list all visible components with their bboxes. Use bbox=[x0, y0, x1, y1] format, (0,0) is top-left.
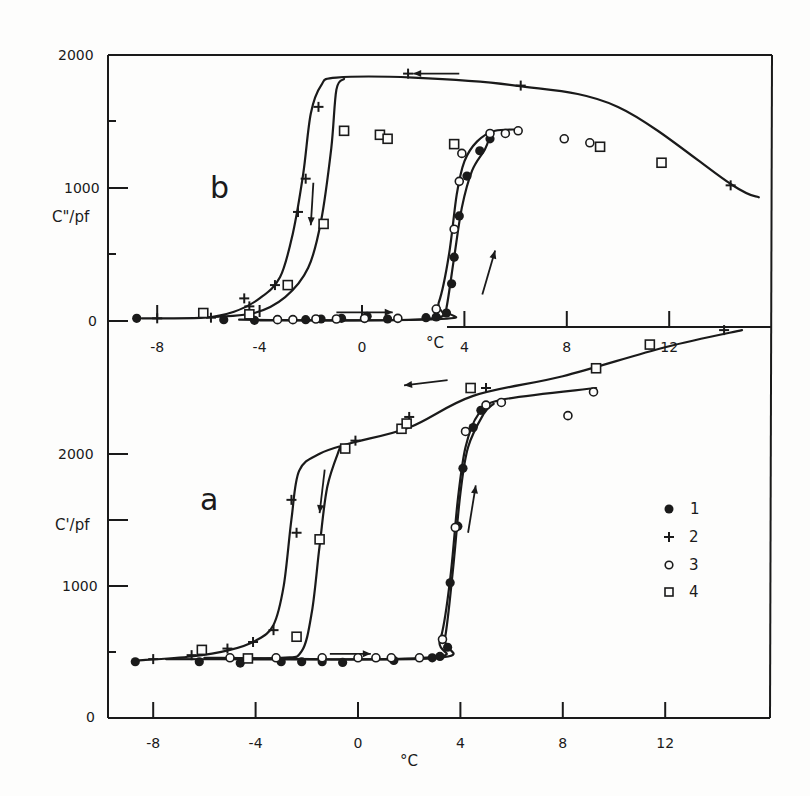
x-tick-label: -4 bbox=[253, 339, 267, 355]
open-circle-marker bbox=[501, 129, 509, 137]
x-tick-label: 4 bbox=[460, 339, 469, 355]
filled-circle-marker bbox=[442, 308, 451, 317]
plus-marker bbox=[248, 637, 258, 647]
open-circle-icon bbox=[665, 561, 673, 569]
x-tick-label: 0 bbox=[358, 339, 367, 355]
filled-circle-marker bbox=[383, 314, 392, 323]
ytick-a-1000: 1000 bbox=[62, 578, 98, 594]
curve-cooling-plus bbox=[138, 330, 742, 660]
plus-marker bbox=[516, 81, 526, 91]
filled-circle-marker bbox=[462, 171, 471, 180]
x-tick-label: 4 bbox=[456, 735, 465, 751]
filled-circle-marker bbox=[131, 657, 140, 666]
open-circle-marker bbox=[455, 177, 463, 185]
ytick-b-1000: 1000 bbox=[64, 180, 100, 196]
open-square-marker bbox=[243, 654, 252, 663]
open-circle-marker bbox=[387, 654, 395, 662]
ytick-a-2000: 2000 bbox=[58, 446, 94, 462]
filled-circle-marker bbox=[132, 314, 141, 323]
y-ticks-a bbox=[108, 454, 128, 652]
open-circle-marker bbox=[361, 314, 369, 322]
svg-text:1: 1 bbox=[690, 500, 700, 518]
open-square-marker bbox=[245, 310, 254, 319]
plus-marker bbox=[152, 313, 162, 323]
open-square-marker bbox=[197, 645, 206, 654]
plus-icon bbox=[664, 532, 674, 542]
panel-label-a: a bbox=[200, 482, 218, 517]
plus-marker bbox=[293, 207, 303, 217]
filled-circle-marker bbox=[443, 643, 452, 652]
x-ticks-a: -8-404812 bbox=[146, 702, 674, 751]
open-square-marker bbox=[596, 142, 605, 151]
xlabel-a: °C bbox=[400, 752, 418, 770]
filled-circle-marker bbox=[297, 657, 306, 666]
open-circle-marker bbox=[394, 314, 402, 322]
open-circle-marker bbox=[354, 654, 362, 662]
arrowhead-icon bbox=[308, 217, 315, 225]
open-circle-marker bbox=[438, 635, 446, 643]
open-circle-marker bbox=[590, 388, 598, 396]
open-square-marker bbox=[592, 364, 601, 373]
open-circle-marker bbox=[274, 316, 282, 324]
ytick-a-0: 0 bbox=[86, 709, 95, 725]
filled-circle-marker bbox=[338, 658, 347, 667]
open-square-marker bbox=[645, 340, 654, 349]
filled-circle-marker bbox=[447, 279, 456, 288]
x-tick-label: -8 bbox=[146, 735, 160, 751]
open-circle-marker bbox=[226, 654, 234, 662]
filled-circle-marker bbox=[458, 464, 467, 473]
filled-circle-marker bbox=[421, 313, 430, 322]
plus-marker bbox=[313, 102, 323, 112]
filled-circle-marker bbox=[475, 146, 484, 155]
open-circle-marker bbox=[432, 305, 440, 313]
legend: 1 2 3 4 bbox=[664, 500, 700, 601]
xlabel-b: °C bbox=[426, 334, 444, 352]
svg-text:3: 3 bbox=[689, 556, 699, 574]
open-square-marker bbox=[341, 444, 350, 453]
panel-label-b: b bbox=[210, 170, 229, 205]
plus-marker bbox=[148, 654, 158, 664]
plus-marker bbox=[239, 293, 249, 303]
legend-entry-3: 3 bbox=[665, 556, 698, 574]
open-circle-marker bbox=[586, 139, 594, 147]
ylabel-b: C"/pf bbox=[52, 208, 90, 226]
open-circle-marker bbox=[289, 316, 297, 324]
open-square-marker bbox=[402, 419, 411, 428]
frame-right bbox=[770, 55, 772, 718]
open-circle-marker bbox=[564, 412, 572, 420]
plus-marker bbox=[269, 625, 279, 635]
filled-circle-marker bbox=[301, 315, 310, 324]
arrowhead-icon bbox=[413, 70, 421, 77]
plot-area-a bbox=[131, 325, 742, 668]
filled-circle-marker bbox=[195, 657, 204, 666]
curve-warming-circle bbox=[166, 388, 596, 660]
legend-entry-4: 4 bbox=[665, 583, 699, 601]
filled-circle-icon bbox=[665, 505, 674, 514]
arrowhead-icon bbox=[471, 485, 478, 493]
hysteresis-figure: 2000 1000 0 2000 1000 0 C"/pf C'/pf -8-4… bbox=[0, 0, 810, 796]
open-circle-marker bbox=[462, 427, 470, 435]
ylabel-a: C'/pf bbox=[55, 516, 90, 534]
x-tick-label: -4 bbox=[249, 735, 263, 751]
open-circle-marker bbox=[458, 149, 466, 157]
open-circle-marker bbox=[560, 135, 568, 143]
open-square-marker bbox=[199, 309, 208, 318]
open-square-marker bbox=[292, 632, 301, 641]
open-square-marker bbox=[340, 126, 349, 135]
open-circle-marker bbox=[415, 654, 423, 662]
open-square-marker bbox=[466, 384, 475, 393]
legend-entry-2: 2 bbox=[664, 528, 699, 546]
legend-entry-1: 1 bbox=[665, 500, 700, 518]
open-square-marker bbox=[383, 134, 392, 143]
open-circle-marker bbox=[486, 129, 494, 137]
filled-circle-marker bbox=[428, 653, 437, 662]
arrowhead-icon bbox=[490, 251, 497, 260]
open-circle-marker bbox=[497, 398, 505, 406]
open-circle-marker bbox=[318, 654, 326, 662]
open-square-marker bbox=[315, 535, 324, 544]
arrowhead-icon bbox=[363, 650, 371, 657]
filled-circle-marker bbox=[455, 211, 464, 220]
open-circle-marker bbox=[450, 225, 458, 233]
open-circle-marker bbox=[372, 654, 380, 662]
open-circle-marker bbox=[482, 401, 490, 409]
